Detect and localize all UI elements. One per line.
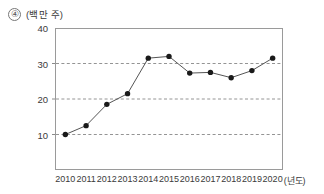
- data-point-2013: [125, 91, 130, 96]
- x-tick-label-2010: 2010: [55, 174, 75, 184]
- data-series-group: [65, 56, 272, 134]
- data-line: [65, 56, 272, 134]
- x-tick-label-2020: 2020: [263, 174, 283, 184]
- x-tick-label-2016: 2016: [180, 174, 200, 184]
- gridline-group: [56, 64, 282, 135]
- data-point-2018: [228, 75, 233, 80]
- x-tick-label-2011: 2011: [76, 174, 95, 184]
- x-tick-label-2019: 2019: [242, 174, 262, 184]
- y-tick-mark-group: [52, 64, 55, 135]
- data-point-2016: [187, 70, 192, 75]
- y-tick-label-20: 20: [18, 94, 48, 105]
- data-point-2014: [146, 55, 151, 60]
- data-point-2011: [83, 123, 88, 128]
- x-tick-label-2015: 2015: [159, 174, 179, 184]
- x-axis-unit-label: (년도): [284, 174, 306, 187]
- x-tick-label-2012: 2012: [97, 174, 117, 184]
- data-point-2012: [104, 102, 109, 107]
- data-point-2010: [63, 132, 68, 137]
- x-tick-label-2017: 2017: [200, 174, 220, 184]
- data-point-group: [63, 54, 276, 138]
- x-tick-label-2018: 2018: [221, 174, 241, 184]
- data-point-2020: [270, 55, 275, 60]
- x-tick-label-2014: 2014: [138, 174, 158, 184]
- y-tick-label-10: 10: [18, 129, 48, 140]
- data-point-2015: [166, 54, 171, 59]
- data-point-2019: [249, 68, 254, 73]
- chart-figure: ④ (백만 주) 10203040 2010201120122013201420…: [0, 0, 324, 194]
- x-tick-label-2013: 2013: [118, 174, 138, 184]
- chart-canvas: [0, 0, 324, 194]
- data-point-2017: [208, 70, 213, 75]
- y-tick-label-30: 30: [18, 58, 48, 69]
- y-tick-label-40: 40: [18, 23, 48, 34]
